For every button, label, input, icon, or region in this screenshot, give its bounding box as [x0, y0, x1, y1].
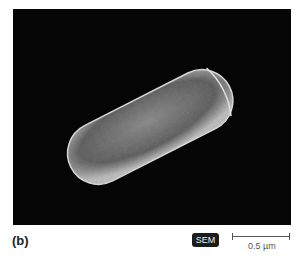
sem-micrograph	[13, 9, 291, 225]
scale-bar-label: 0.5 µm	[248, 241, 276, 251]
bacterium-image	[13, 9, 291, 225]
panel-label: (b)	[12, 233, 29, 248]
sem-badge: SEM	[192, 233, 219, 247]
scale-bar	[232, 236, 290, 237]
